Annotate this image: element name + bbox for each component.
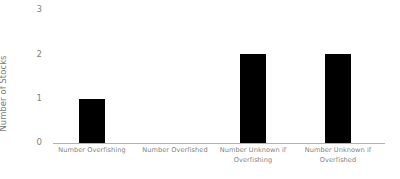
y-tick-label-1: 1 (24, 94, 42, 103)
y-axis-title-text: Number of Stocks (0, 55, 8, 131)
y-tick-label-3: 3 (24, 5, 42, 14)
bar-number-unknown-if-overfishing (240, 54, 266, 143)
bar-number-unknown-if-overfished (325, 54, 351, 143)
y-axis-tick-labels: 3 2 1 0 (24, 0, 42, 179)
y-tick-label-2: 2 (24, 50, 42, 59)
bar-chart: Number of Stocks 3 2 1 0 Number Overfish… (0, 0, 400, 179)
bar-number-overfishing (79, 99, 105, 143)
x-axis-tick-labels: Number Overfishing Number Overfished Num… (53, 146, 385, 179)
x-axis-line (53, 143, 385, 144)
x-tick-label-0: Number Overfishing (44, 146, 140, 156)
plot-area (53, 0, 385, 143)
x-tick-label-2: Number Unknown if Overfishing (205, 146, 301, 165)
y-tick-label-0: 0 (24, 138, 42, 147)
y-axis-title: Number of Stocks (0, 0, 14, 179)
x-tick-label-3: Number Unknown if Overfished (290, 146, 386, 165)
